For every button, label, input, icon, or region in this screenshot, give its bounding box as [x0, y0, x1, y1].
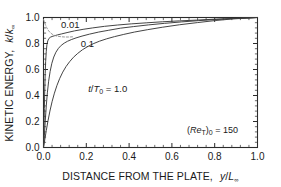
curve-label: 0.01: [61, 19, 80, 30]
x-axis-title-main: DISTANCE FROM THE PLATE,: [62, 170, 213, 182]
reynolds-annotation: (ReT)0 = 150: [187, 125, 238, 136]
x-tick-label: 1.0: [251, 151, 265, 162]
y-axis-title: KINETIC ENERGY, k/k∞: [3, 24, 16, 141]
x-axis-title: DISTANCE FROM THE PLATE, y/L∞: [62, 170, 238, 183]
y-tick-label: 1.0: [26, 12, 40, 23]
y-tick-label: 0.6: [26, 64, 40, 75]
chart-figure: 0.00.20.40.60.81.0 0.00.20.40.60.81.0 DI…: [0, 0, 281, 187]
chart-canvas: 0.00.20.40.60.81.0 0.00.20.40.60.81.0 DI…: [0, 0, 281, 187]
curve-label: t/T0 = 1.0: [88, 83, 127, 95]
y-tick-label: 0.2: [26, 116, 40, 127]
x-tick-label: 0.8: [208, 151, 222, 162]
x-tick-label: 0.4: [122, 151, 136, 162]
y-axis-title-main: KINETIC ENERGY,: [3, 50, 15, 142]
x-tick-label: 0.2: [79, 151, 93, 162]
y-tick-label: 0.0: [26, 142, 40, 153]
y-tick-label: 0.8: [26, 38, 40, 49]
x-tick-label: 0.6: [165, 151, 179, 162]
y-tick-label: 0.4: [26, 90, 40, 101]
curve-label: 0.1: [81, 38, 94, 49]
